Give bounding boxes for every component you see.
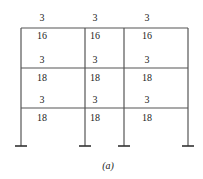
floor-2-bottom-label-3: 18 bbox=[142, 72, 152, 83]
roof-top-label-3: 3 bbox=[145, 12, 150, 23]
floor-1-top-label-1: 3 bbox=[40, 94, 45, 105]
floor-1-bottom-label-3: 18 bbox=[142, 112, 152, 123]
floor-1-top-label-3: 3 bbox=[145, 94, 150, 105]
floor-2-bottom-label-1: 18 bbox=[37, 72, 47, 83]
roof-bottom-label-1: 16 bbox=[37, 30, 47, 41]
frame-diagram: 3 3 3 16 16 16 3 3 3 18 18 18 3 3 3 18 1… bbox=[0, 0, 203, 179]
figure-caption: (a) bbox=[102, 160, 114, 172]
floor-2-top-label-3: 3 bbox=[145, 54, 150, 65]
floor-2-top-label-1: 3 bbox=[40, 54, 45, 65]
roof-bottom-label-3: 16 bbox=[142, 30, 152, 41]
roof-top-label-2: 3 bbox=[93, 12, 98, 23]
floor-1-top-label-2: 3 bbox=[93, 94, 98, 105]
floor-1-bottom-label-2: 18 bbox=[90, 112, 100, 123]
floor-2-top-label-2: 3 bbox=[93, 54, 98, 65]
floor-2-bottom-label-2: 18 bbox=[90, 72, 100, 83]
roof-bottom-label-2: 16 bbox=[90, 30, 100, 41]
roof-top-label-1: 3 bbox=[40, 12, 45, 23]
floor-1-bottom-label-1: 18 bbox=[37, 112, 47, 123]
